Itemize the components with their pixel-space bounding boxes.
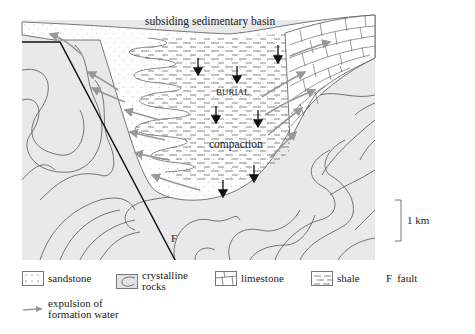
- expulsion-arrow-icon: [22, 304, 44, 314]
- crystalline-swatch: [116, 274, 138, 289]
- shale-swatch: [311, 271, 333, 286]
- legend-label: crystallinerocks: [142, 270, 188, 292]
- scale-label: 1 km: [407, 214, 429, 226]
- legend-sandstone: sandstone: [22, 271, 91, 286]
- legend-label: expulsion offormation water: [48, 298, 119, 320]
- limestone-swatch: [215, 271, 237, 286]
- legend-fault: F fault: [386, 272, 417, 284]
- basin-label: subsiding sedimentary basin: [145, 15, 275, 27]
- scale-bar: [395, 200, 401, 241]
- legend-limestone: limestone: [215, 271, 284, 286]
- legend-label: limestone: [241, 273, 284, 284]
- legend-label: sandstone: [48, 273, 91, 284]
- fault-symbol: F: [386, 272, 392, 284]
- burial-label: BURIAL: [216, 87, 250, 97]
- fault-marker-label: F: [171, 232, 177, 244]
- legend-expulsion: expulsion offormation water: [22, 298, 119, 320]
- compaction-label: compaction: [209, 138, 263, 150]
- legend-label: shale: [337, 273, 360, 284]
- sandstone-swatch: [22, 271, 44, 286]
- legend-shale: shale: [311, 271, 360, 286]
- legend-label: fault: [397, 273, 417, 284]
- legend-crystalline: crystallinerocks: [116, 270, 188, 292]
